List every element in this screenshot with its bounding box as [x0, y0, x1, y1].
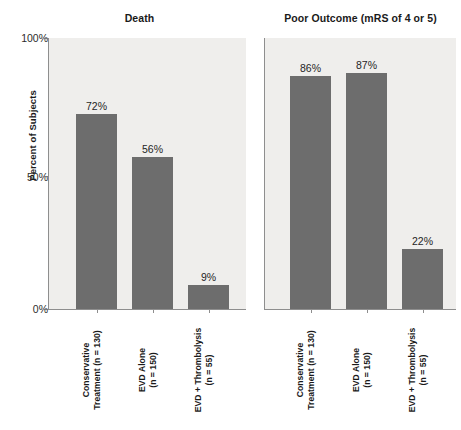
x-label-death-evd-alone: EVD Alone (n = 150)	[137, 316, 151, 424]
panel-death-title: Death	[41, 12, 238, 24]
x-label-death-conservative: Conservative Treatment (n = 130)	[81, 316, 95, 424]
bar-poor-outcome-evd-alone[interactable]: 87%	[346, 73, 387, 309]
x-label-line2: (n = 150)	[148, 316, 159, 424]
panel-poor-outcome: Poor Outcome (mRS of 4 or 5) 86% 87% 22%	[264, 38, 456, 310]
x-label-death-evd-thrombolysis: EVD + Thrombolysis (n = 55)	[193, 316, 207, 424]
bar-poor-outcome-conservative[interactable]: 86%	[290, 76, 331, 309]
x-tick-mark-death-evd-thrombolysis	[209, 309, 210, 313]
x-label-line2: Treatment (n = 130)	[306, 316, 317, 424]
y-axis-title: Percent of Subjects	[27, 66, 38, 206]
x-tick-mark-poor-outcome-evd-alone	[367, 309, 368, 313]
x-tick-mark-death-evd-alone	[153, 309, 154, 313]
y-axis: Percent of Subjects 100% 50% 0%	[0, 0, 48, 430]
bar-value-death-conservative: 72%	[86, 100, 107, 112]
x-label-poor-outcome-evd-alone: EVD Alone (n = 150)	[351, 316, 365, 424]
bar-value-death-evd-alone: 56%	[142, 143, 163, 155]
x-label-line1: Conservative	[81, 343, 91, 398]
bar-value-poor-outcome-evd-alone: 87%	[356, 59, 377, 71]
y-tick-label-0: 0%	[4, 303, 48, 315]
x-label-line1: Conservative	[295, 343, 305, 398]
x-label-line2: Treatment (n = 130)	[92, 316, 103, 424]
bar-value-death-evd-thrombolysis: 9%	[201, 271, 216, 283]
x-label-line1: EVD Alone	[351, 348, 361, 392]
panel-death: Death 72% 56% 9%	[48, 38, 246, 310]
x-label-poor-outcome-evd-thrombolysis: EVD + Thrombolysis (n = 55)	[407, 316, 421, 424]
y-tick-label-100: 100%	[4, 32, 48, 44]
x-tick-mark-poor-outcome-conservative	[311, 309, 312, 313]
x-label-line2: (n = 55)	[418, 316, 429, 424]
panel-poor-outcome-title: Poor Outcome (mRS of 4 or 5)	[265, 12, 456, 24]
x-tick-mark-poor-outcome-evd-thrombolysis	[423, 309, 424, 313]
y-tick-label-50: 50%	[4, 171, 48, 183]
bar-poor-outcome-evd-thrombolysis[interactable]: 22%	[402, 249, 443, 309]
bar-death-conservative[interactable]: 72%	[76, 114, 117, 309]
bar-death-evd-thrombolysis[interactable]: 9%	[188, 285, 229, 309]
x-label-line1: EVD Alone	[137, 348, 147, 392]
bar-value-poor-outcome-conservative: 86%	[300, 62, 321, 74]
panel-poor-outcome-bars: 86% 87% 22%	[265, 38, 456, 309]
bar-death-evd-alone[interactable]: 56%	[132, 157, 173, 309]
x-label-line2: (n = 150)	[362, 316, 373, 424]
x-label-line1: EVD + Thrombolysis	[193, 328, 203, 413]
grouped-bar-chart-figure: Percent of Subjects 100% 50% 0% Death 72…	[0, 0, 461, 430]
x-tick-mark-death-conservative	[97, 309, 98, 313]
x-label-poor-outcome-conservative: Conservative Treatment (n = 130)	[295, 316, 309, 424]
x-label-line1: EVD + Thrombolysis	[407, 328, 417, 413]
panel-death-bars: 72% 56% 9%	[49, 38, 246, 309]
bar-value-poor-outcome-evd-thrombolysis: 22%	[412, 235, 433, 247]
x-label-line2: (n = 55)	[204, 316, 215, 424]
